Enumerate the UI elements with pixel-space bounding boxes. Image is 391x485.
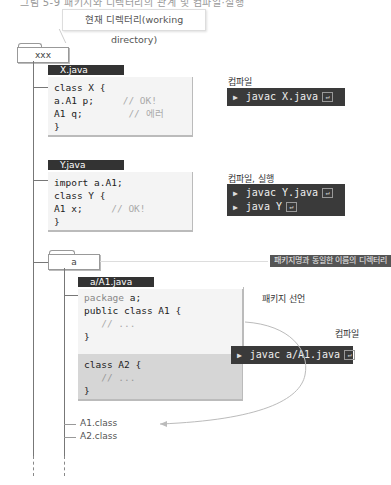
tree-continue-root — [33, 456, 34, 476]
tree-branch-a2-class — [64, 437, 76, 438]
prompt-arrow-icon: ▶ — [233, 203, 238, 212]
code-line: } — [54, 215, 186, 228]
tree-line-a — [64, 268, 65, 456]
tree-branch-a1 — [64, 295, 78, 296]
prompt-arrow-icon: ▶ — [233, 93, 238, 102]
prompt-arrow-icon: ▶ — [233, 189, 238, 198]
tree-line-root — [33, 61, 34, 456]
root-folder[interactable]: xxx — [17, 47, 69, 63]
figure-heading: 그림 5-9 패키지와 디렉터리의 관계 및 컴파일·실행 — [20, 0, 244, 9]
file-tag-y: Y.java — [48, 160, 124, 170]
enter-key-icon: ↵ — [286, 202, 297, 212]
code-block-y: import a.A1; class Y { A1 x; // OK! } — [48, 172, 193, 232]
compile-label-a1: 컴파일 — [335, 327, 359, 340]
file-a1-class[interactable]: A1.class — [80, 418, 117, 428]
enter-key-icon: ↵ — [322, 92, 333, 102]
package-folder-a[interactable]: a — [48, 254, 100, 270]
code-line: class Y { — [54, 189, 186, 202]
compile-output-arrow — [150, 320, 310, 430]
code-line: } — [54, 120, 186, 133]
enter-key-icon: ↵ — [344, 350, 355, 360]
file-tag-x: X.java — [48, 65, 124, 75]
working-directory-callout: 현재 디렉터리(working directory) — [62, 9, 206, 31]
code-line: import a.A1; — [54, 176, 186, 189]
tree-branch-a — [33, 262, 48, 263]
enter-key-icon: ↵ — [322, 188, 333, 198]
banner-connector — [100, 261, 268, 262]
terminal-y: ▶javac Y.java↵ ▶java Y↵ — [227, 184, 345, 216]
package-dir-banner: 패키지명과 동일한 이름의 디렉터리 — [270, 255, 391, 267]
code-line: class X { — [54, 81, 186, 94]
code-block-x: class X { a.A1 p; // OK! A1 q; // 에러 } — [48, 77, 193, 137]
code-line: public class A1 { — [84, 304, 236, 317]
tree-branch-y — [33, 180, 48, 181]
code-line: A1 x; // OK! — [54, 202, 186, 215]
package-decl-label: 패키지 선언 — [262, 292, 305, 305]
code-line: a.A1 p; // OK! — [54, 94, 186, 107]
callout-pointer — [59, 29, 75, 43]
terminal-x: ▶javac X.java↵ — [227, 88, 345, 106]
code-line: A1 q; // 에러 — [54, 107, 186, 120]
file-a2-class[interactable]: A2.class — [80, 431, 117, 441]
tree-branch-x — [33, 87, 48, 88]
compile-label-x: 컴파일 — [228, 75, 252, 88]
package-line: package a; — [84, 291, 236, 304]
file-tag-a1: a/A1.java — [78, 277, 154, 287]
tree-continue-a — [64, 456, 65, 476]
tree-branch-a1-class — [64, 424, 76, 425]
